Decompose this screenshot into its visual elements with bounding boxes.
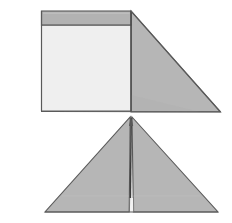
upper-front-panel-face: [42, 25, 132, 111]
lower-center-seam: [130, 118, 131, 205]
wedge-prism-figure: [0, 0, 232, 223]
figure-root: [0, 0, 232, 223]
